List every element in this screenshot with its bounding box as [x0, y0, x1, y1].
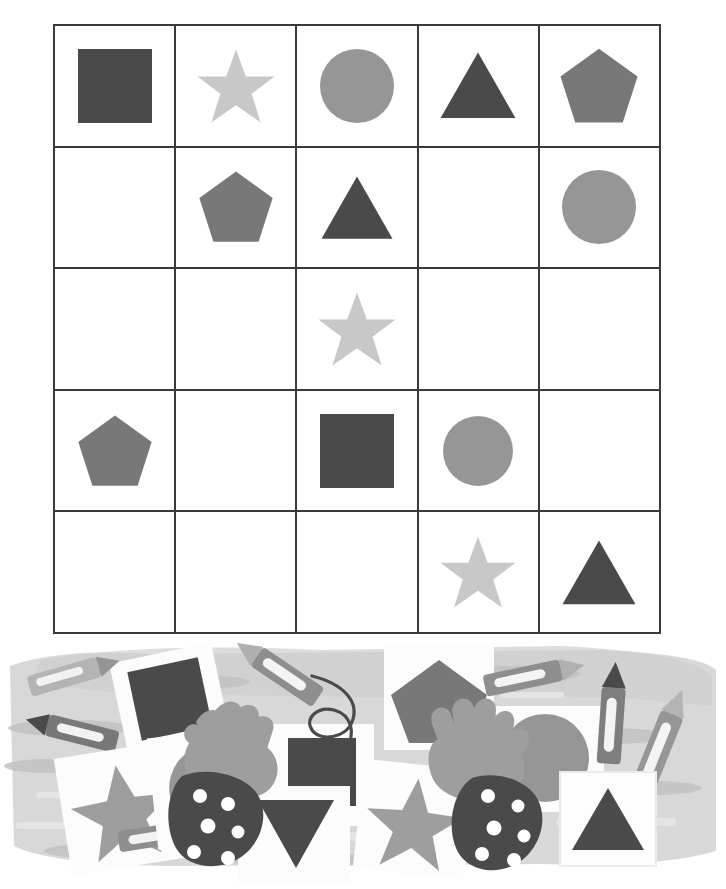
grid-cell-r4c4[interactable]	[418, 390, 539, 512]
grid-cell-content	[55, 26, 174, 146]
grid-cell-r4c1[interactable]	[54, 390, 175, 512]
grid-cell-content	[55, 148, 174, 268]
grid-cell-content	[297, 269, 416, 389]
grid-cell-r1c4[interactable]	[418, 25, 539, 147]
shape-grid-container	[53, 24, 661, 634]
shape-grid	[53, 24, 661, 634]
shape-star	[195, 47, 277, 125]
shape-triangle	[439, 51, 517, 120]
grid-cell-r5c2[interactable]	[175, 511, 296, 633]
grid-cell-content	[176, 269, 295, 389]
grid-cell-r4c5[interactable]	[539, 390, 660, 512]
bottom-illustration	[0, 636, 726, 889]
grid-cell-content	[176, 391, 295, 511]
grid-cell-r5c3[interactable]	[296, 511, 417, 633]
grid-cell-content	[419, 26, 538, 146]
grid-cell-content	[176, 26, 295, 146]
grid-cell-content	[540, 269, 659, 389]
shape-grid-body	[54, 25, 660, 633]
grid-cell-content	[419, 269, 538, 389]
grid-cell-content	[419, 512, 538, 632]
grid-cell-content	[55, 269, 174, 389]
grid-cell-content	[297, 148, 416, 268]
shape-circle	[443, 416, 513, 486]
grid-cell-r5c5[interactable]	[539, 511, 660, 633]
grid-row	[54, 390, 660, 512]
grid-row	[54, 268, 660, 390]
shape-pentagon	[76, 414, 154, 488]
shape-square	[320, 414, 394, 488]
shape-pentagon	[558, 47, 640, 125]
grid-cell-r3c2[interactable]	[175, 268, 296, 390]
grid-cell-r1c2[interactable]	[175, 25, 296, 147]
grid-cell-content	[176, 148, 295, 268]
grid-cell-r1c5[interactable]	[539, 25, 660, 147]
grid-row	[54, 25, 660, 147]
shape-triangle	[561, 539, 637, 606]
grid-cell-r1c1[interactable]	[54, 25, 175, 147]
worksheet-page	[0, 0, 726, 889]
grid-cell-r2c1[interactable]	[54, 147, 175, 269]
card-triangle-up-right	[560, 772, 656, 866]
grid-cell-r2c5[interactable]	[539, 147, 660, 269]
shape-triangle	[320, 175, 394, 240]
grid-cell-content	[176, 512, 295, 632]
grid-cell-r5c4[interactable]	[418, 511, 539, 633]
illustration-svg	[0, 636, 726, 889]
shape-circle	[320, 49, 394, 123]
grid-cell-r3c5[interactable]	[539, 268, 660, 390]
grid-cell-content	[540, 26, 659, 146]
grid-cell-r2c4[interactable]	[418, 147, 539, 269]
grid-cell-r4c3[interactable]	[296, 390, 417, 512]
shape-star	[316, 290, 398, 368]
grid-cell-content	[55, 391, 174, 511]
grid-cell-content	[297, 512, 416, 632]
grid-row	[54, 147, 660, 269]
grid-cell-content	[540, 512, 659, 632]
shape-pentagon	[197, 170, 275, 244]
grid-cell-content	[540, 391, 659, 511]
grid-cell-r2c3[interactable]	[296, 147, 417, 269]
grid-cell-r1c3[interactable]	[296, 25, 417, 147]
grid-cell-content	[540, 148, 659, 268]
shape-circle	[562, 170, 636, 244]
grid-cell-r5c1[interactable]	[54, 511, 175, 633]
grid-cell-r3c4[interactable]	[418, 268, 539, 390]
grid-cell-r3c3[interactable]	[296, 268, 417, 390]
grid-cell-content	[419, 148, 538, 268]
grid-cell-content	[297, 391, 416, 511]
grid-cell-r4c2[interactable]	[175, 390, 296, 512]
grid-cell-content	[55, 512, 174, 632]
grid-cell-r3c1[interactable]	[54, 268, 175, 390]
shape-star	[438, 534, 518, 610]
grid-row	[54, 511, 660, 633]
shape-square	[78, 49, 152, 123]
grid-cell-content	[419, 391, 538, 511]
grid-cell-content	[297, 26, 416, 146]
grid-cell-r2c2[interactable]	[175, 147, 296, 269]
